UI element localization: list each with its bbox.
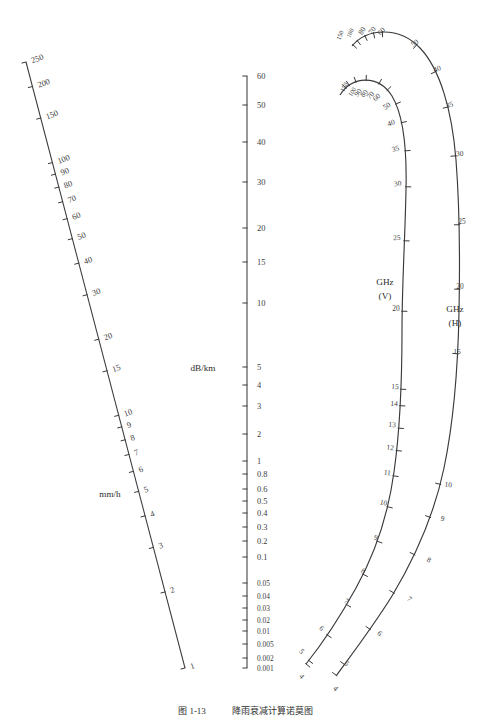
rain-rate-tick-label: 30: [91, 287, 102, 298]
attenuation-tick-label: 3: [257, 402, 261, 411]
frequency-vertical-unit-label-line1: GHz: [376, 277, 393, 287]
rain-rate-tick-label: 250: [30, 52, 45, 65]
attenuation-tick-label: 0.2: [257, 537, 267, 546]
rain-rate-tick-label: 5: [143, 485, 150, 495]
rain-rate-tick-label: 4: [149, 509, 157, 519]
frequency-vertical-tick-label: 12: [386, 443, 395, 453]
frequency-vertical-tick-label: 13: [388, 420, 396, 430]
frequency-horizontal-tick-label: 20: [456, 282, 464, 291]
frequency-horizontal-tick-label: 15: [453, 347, 461, 356]
frequency-horizontal-tick-label: 6: [375, 629, 384, 638]
rain-rate-tick-label: 100: [56, 153, 71, 166]
attenuation-tick-label: 0.8: [257, 470, 267, 479]
frequency-vertical-tick-label: 35: [391, 143, 401, 154]
frequency-horizontal-curve: [336, 32, 460, 676]
rain-rate-tick-label: 50: [76, 231, 87, 242]
rain-rate-tick-label: 10: [123, 407, 134, 418]
attenuation-tick-label: 0.1: [257, 553, 267, 562]
attenuation-tick-label: 0.04: [257, 592, 270, 601]
frequency-horizontal-tick-label: 7: [405, 594, 414, 604]
rain-rate-tick-label: 3: [157, 541, 164, 551]
rain-rate-tick-label: 20: [103, 331, 114, 342]
frequency-vertical-tick-label: 25: [393, 233, 401, 242]
frequency-vertical-tick-label: 6: [317, 624, 326, 633]
rain-rate-tick-label: 1: [189, 661, 196, 671]
attenuation-tick-label: 50: [257, 101, 265, 110]
figure-caption-text: 降雨衰减计算诺莫图: [232, 706, 313, 716]
frequency-horizontal-tick-label: 8: [425, 555, 433, 565]
scale-attenuation: 60504030201510543210.80.60.50.40.30.20.1…: [190, 72, 273, 673]
rain-rate-tick-label: 9: [126, 420, 133, 430]
frequency-horizontal-tick-label: 5: [342, 659, 351, 668]
frequency-vertical-tick-label: 4: [297, 672, 306, 681]
frequency-vertical-tick-label: 15: [391, 382, 399, 391]
attenuation-tick-label: 30: [257, 178, 265, 187]
frequency-vertical-curve: [306, 80, 406, 664]
attenuation-tick-label: 0.005: [257, 640, 274, 649]
frequency-vertical-tick-label: 30: [393, 179, 402, 189]
attenuation-tick-label: 0.4: [257, 509, 268, 518]
attenuation-tick-label: 60: [257, 72, 265, 81]
frequency-horizontal-unit-label-line2: (H): [449, 318, 462, 328]
attenuation-tick-label: 15: [257, 258, 265, 267]
rain-rate-tick-label: 7: [133, 448, 140, 458]
rain-rate-tick-label: 90: [59, 166, 70, 177]
attenuation-tick-label: 20: [257, 224, 265, 233]
frequency-horizontal-tick-group: 1501008070605040353025201510987654: [331, 25, 466, 693]
rain-rate-unit-label: mm/h: [99, 489, 121, 499]
rain-rate-axis-line: [26, 62, 185, 668]
frequency-horizontal-tick-label: 10: [444, 480, 453, 490]
frequency-horizontal-tick-label: 60: [375, 25, 387, 37]
rain-rate-tick-label: 60: [71, 211, 82, 222]
frequency-vertical-tick-label: 20: [392, 304, 400, 313]
frequency-horizontal-tick-label: 30: [456, 149, 464, 159]
attenuation-tick-label: 0.02: [257, 616, 270, 625]
rain-rate-tick-label: 150: [45, 109, 60, 122]
attenuation-tick-label: 10: [257, 299, 265, 308]
frequency-horizontal-tick-label: 4: [331, 684, 340, 693]
attenuation-tick-label: 0.03: [257, 604, 270, 613]
figure-caption: 图 1-13降雨衰减计算诺莫图: [0, 704, 491, 717]
scale-frequency-horizontal: 1501008070605040353025201510987654 GHz (…: [331, 25, 466, 693]
rain-rate-tick-label: 40: [83, 255, 94, 266]
attenuation-unit-label: dB/km: [190, 363, 215, 373]
attenuation-tick-label: 0.001: [257, 664, 274, 673]
rain-rate-tick-label: 2: [169, 585, 176, 595]
figure-caption-number: 图 1-13: [178, 706, 206, 716]
attenuation-tick-label: 40: [257, 138, 265, 147]
attenuation-tick-label: 2: [257, 430, 261, 439]
frequency-vertical-tick-label: 50: [381, 100, 392, 112]
attenuation-tick-label: 0.5: [257, 497, 267, 506]
frequency-horizontal-tick-label: 9: [440, 514, 446, 524]
scale-rain-rate: 2502001501009080706050403020151098765432…: [22, 52, 196, 671]
attenuation-tick-label: 0.3: [257, 523, 267, 532]
rain-rate-tick-label: 6: [137, 465, 144, 475]
frequency-horizontal-unit-label-line1: GHz: [446, 304, 463, 314]
rain-rate-tick-label: 8: [129, 433, 136, 443]
scale-frequency-vertical: 1501009080706050403530252015141312111098…: [297, 75, 411, 681]
attenuation-tick-label: 0.002: [257, 654, 274, 663]
frequency-horizontal-tick-label: 25: [458, 217, 466, 226]
attenuation-tick-label: 4: [257, 381, 262, 390]
frequency-vertical-tick-label: 11: [383, 468, 392, 478]
attenuation-tick-label: 5: [257, 363, 261, 372]
rain-rate-tick-label: 15: [111, 363, 122, 374]
frequency-horizontal-tick-label: 35: [445, 99, 455, 110]
attenuation-tick-label: 0.05: [257, 579, 270, 588]
rain-rate-tick-label: 80: [63, 179, 74, 190]
frequency-horizontal-tick-label: 100: [345, 27, 355, 39]
frequency-vertical-tick-label: 14: [390, 399, 398, 408]
frequency-vertical-tick-label: 40: [386, 117, 397, 128]
frequency-vertical-tick-label: 5: [297, 647, 306, 656]
attenuation-tick-label: 1: [257, 457, 261, 466]
rain-rate-tick-label: 70: [67, 194, 78, 205]
frequency-vertical-unit-label-line2: (V): [379, 291, 392, 301]
attenuation-tick-label: 0.01: [257, 627, 270, 636]
attenuation-tick-label: 0.6: [257, 485, 267, 494]
frequency-horizontal-tick-label: 150: [335, 29, 345, 41]
rain-rate-tick-label: 200: [36, 77, 51, 90]
